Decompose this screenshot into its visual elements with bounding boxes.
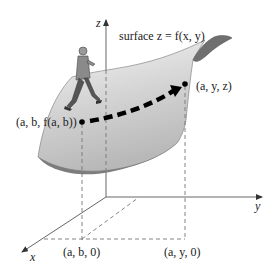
start-point-dot xyxy=(79,119,85,125)
z-axis-label: z xyxy=(95,16,101,30)
end-point-label: (a, y, z) xyxy=(196,79,232,93)
x-axis-label: x xyxy=(29,250,36,264)
start-projection-label: (a, b, 0) xyxy=(63,245,100,259)
surface-label: surface z = f(x, y) xyxy=(119,29,205,43)
start-point-label: (a, b, f(a, b)) xyxy=(16,115,77,129)
surface xyxy=(38,40,205,171)
y-axis-label: y xyxy=(254,199,261,213)
end-projection-label: (a, y, 0) xyxy=(164,245,201,259)
base-line-to-y-axis xyxy=(82,198,138,239)
end-point-dot xyxy=(182,81,188,87)
surface-diagram: z y x surface z = f(x, y) (a, b, f(a, b)… xyxy=(0,0,275,270)
x-axis xyxy=(22,197,106,252)
